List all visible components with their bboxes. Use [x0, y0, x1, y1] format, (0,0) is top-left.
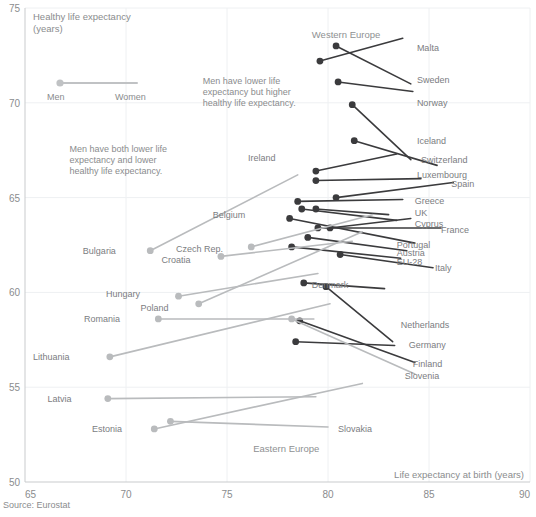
group-label-western-europe: Western Europe [312, 29, 380, 40]
country-label-slovenia: Slovenia [405, 371, 440, 381]
country-label-bulgaria: Bulgaria [83, 246, 116, 256]
country-label-hungary: Hungary [106, 289, 141, 299]
group-label-eastern-europe: Eastern Europe [253, 443, 319, 454]
country-label-france: France [441, 225, 469, 235]
country-label-greece: Greece [415, 196, 445, 206]
connector-line-luxembourg[interactable] [316, 179, 421, 181]
country-label-denmark: Denmark [312, 280, 349, 290]
connector-line-croatia[interactable] [221, 241, 352, 256]
men-dot-czech-rep-[interactable] [248, 243, 255, 250]
y-tick-label: 70 [9, 98, 21, 109]
country-label-estonia: Estonia [92, 424, 122, 434]
source-caption: Source: Eurostat [3, 500, 70, 510]
country-label-switzerland: Switzerland [421, 155, 468, 165]
y-axis-title: Healthy life expectancy [33, 11, 131, 22]
y-tick-label: 55 [9, 382, 21, 393]
connector-line-finland[interactable] [300, 321, 415, 363]
men-dot-lithuania[interactable] [106, 353, 113, 360]
men-dot-iceland[interactable] [349, 101, 356, 108]
country-label-lithuania: Lithuania [33, 352, 70, 362]
country-label-eu-28: EU-28 [397, 257, 423, 267]
country-label-spain: Spain [451, 179, 474, 189]
country-label-finland: Finland [413, 359, 443, 369]
y-tick-label: 75 [9, 3, 21, 14]
men-dot-denmark[interactable] [300, 280, 307, 287]
annot-lower-both: Men have both lower life [69, 144, 167, 154]
connector-line-norway[interactable] [338, 82, 413, 91]
connector-line-sweden[interactable] [336, 46, 411, 84]
connector-line-poland[interactable] [199, 232, 363, 304]
x-tick-label: 85 [423, 489, 435, 500]
men-dot-slovakia[interactable] [167, 418, 174, 425]
country-label-malta: Malta [417, 43, 439, 53]
connector-line-iceland[interactable] [352, 105, 411, 160]
men-dot-austria[interactable] [304, 234, 311, 241]
country-label-croatia: Croatia [162, 255, 191, 265]
connector-line-eu-28[interactable] [292, 247, 401, 258]
country-label-czech-rep-: Czech Rep. [176, 244, 223, 254]
men-dot-italy[interactable] [337, 251, 344, 258]
annot-higher-hle: Men have lower life [203, 76, 281, 86]
country-label-latvia: Latvia [47, 394, 71, 404]
men-dot-sweden[interactable] [333, 43, 340, 50]
x-axis-title: Life expectancy at birth (years) [394, 469, 524, 480]
x-tick-label: 80 [322, 489, 334, 500]
annot-lower-both: healthy life expectancy. [69, 166, 162, 176]
country-label-italy: Italy [435, 263, 452, 273]
legend-label-men: Men [47, 92, 65, 102]
men-dot-estonia[interactable] [151, 426, 158, 433]
connector-line-greece[interactable] [298, 199, 403, 201]
country-label-norway: Norway [417, 98, 448, 108]
annot-higher-hle: expectancy but higher [203, 87, 291, 97]
men-dot-ireland[interactable] [312, 168, 319, 175]
x-tick-label: 90 [519, 489, 531, 500]
y-tick-label: 60 [9, 287, 21, 298]
scatter-plot-svg: 505560657075657075808590Healthy life exp… [0, 0, 536, 517]
x-tick-label: 75 [221, 489, 233, 500]
chart-container: 505560657075657075808590Healthy life exp… [0, 0, 536, 517]
men-dot-portugal[interactable] [286, 215, 293, 222]
men-dot-bulgaria[interactable] [147, 247, 154, 254]
country-label-cyprus: Cyprus [415, 219, 444, 229]
connector-line-slovakia[interactable] [170, 421, 328, 427]
country-label-belgium: Belgium [213, 210, 246, 220]
men-dot-germany[interactable] [292, 338, 299, 345]
men-dot-croatia[interactable] [218, 253, 225, 260]
connector-line-malta[interactable] [320, 38, 403, 61]
men-dot-greece[interactable] [294, 198, 301, 205]
annot-higher-hle: healthy life expectancy. [203, 98, 296, 108]
men-dot-poland[interactable] [195, 300, 202, 307]
men-dot-luxembourg[interactable] [312, 177, 319, 184]
country-label-uk: UK [415, 208, 428, 218]
country-label-romania: Romania [84, 314, 120, 324]
y-tick-label: 65 [9, 193, 21, 204]
men-dot-belgium[interactable] [298, 206, 305, 213]
country-label-poland: Poland [140, 303, 168, 313]
annot-lower-both: expectancy and lower [69, 155, 156, 165]
connector-line-slovenia[interactable] [292, 319, 415, 374]
x-tick-label: 65 [25, 489, 37, 500]
men-dot-malta[interactable] [317, 58, 324, 65]
legend-label-women: Women [115, 92, 146, 102]
men-dot-hungary[interactable] [175, 293, 182, 300]
x-tick-label: 70 [120, 489, 132, 500]
country-label-iceland: Iceland [417, 136, 446, 146]
y-axis-title: (years) [33, 23, 63, 34]
connector-line-spain[interactable] [336, 182, 453, 197]
men-dot-norway[interactable] [335, 79, 342, 86]
men-dot-latvia[interactable] [104, 395, 111, 402]
country-label-ireland: Ireland [248, 153, 276, 163]
men-dot-romania[interactable] [155, 316, 162, 323]
legend-men-dot [56, 79, 63, 86]
connector-line-latvia[interactable] [108, 397, 316, 399]
men-dot-switzerland[interactable] [351, 137, 358, 144]
country-label-germany: Germany [409, 340, 447, 350]
country-label-slovakia: Slovakia [338, 424, 372, 434]
country-label-netherlands: Netherlands [401, 320, 450, 330]
country-label-sweden: Sweden [417, 75, 450, 85]
y-tick-label: 50 [9, 477, 21, 488]
